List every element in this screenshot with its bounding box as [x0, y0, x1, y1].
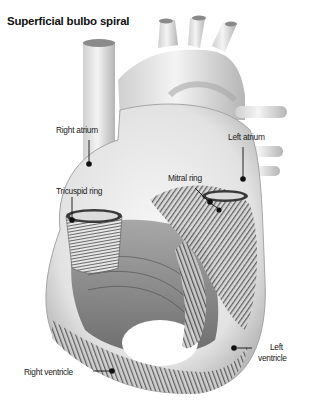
label-tricuspid-ring: Tricuspid ring	[56, 185, 102, 196]
label-left-ventricle-line1: Left	[258, 341, 287, 352]
label-mitral-ring: Mitral ring	[168, 172, 202, 183]
label-left-atrium: Left atrium	[228, 131, 265, 142]
label-right-ventricle: Right ventricle	[24, 366, 73, 377]
label-left-ventricle: Left ventricle	[258, 341, 287, 363]
label-left-ventricle-line2: ventricle	[258, 352, 287, 363]
label-right-atrium: Right atrium	[56, 124, 98, 135]
